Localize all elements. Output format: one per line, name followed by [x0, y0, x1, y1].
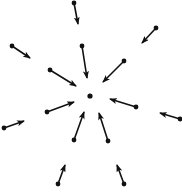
arrow-top: [72, 1, 78, 24]
arrow-shaft: [142, 28, 156, 43]
arrow-tail-dot: [72, 138, 77, 143]
arrow-right-outer: [160, 113, 182, 121]
arrow-tail-dot: [10, 44, 15, 49]
arrow-tail-dot: [122, 59, 127, 64]
arrow-bottom-left: [56, 165, 65, 186]
arrow-shaft: [47, 102, 74, 112]
arrow-shaft: [74, 112, 84, 140]
arrow-shaft: [160, 113, 180, 119]
center-point: [87, 93, 92, 98]
arrow-upper-left-outer: [10, 44, 30, 58]
arrow-tail-dot: [106, 139, 111, 144]
arrow-shaft: [103, 61, 124, 82]
arrow-right-inner: [110, 99, 138, 109]
arrow-shaft: [58, 165, 65, 184]
arrow-shaft: [12, 46, 30, 58]
arrow-tail-dot: [56, 182, 61, 187]
arrow-shaft: [4, 121, 24, 128]
arrow-left-outer: [2, 121, 24, 130]
arrow-tail-dot: [48, 68, 53, 73]
arrow-upper-inner: [80, 44, 87, 78]
arrow-bottom-right: [117, 165, 126, 186]
arrow-tail-dot: [178, 117, 182, 122]
arrow-tail-dot: [72, 1, 77, 6]
arrow-lower-right-inner: [99, 113, 110, 143]
arrow-shaft: [50, 70, 76, 86]
arrow-upper-right-outer: [142, 26, 158, 43]
arrow-group: [2, 1, 182, 187]
arrow-lower-left-inner: [72, 112, 84, 142]
arrow-shaft: [82, 46, 87, 78]
vector-field-diagram: [0, 0, 182, 194]
arrow-upper-right-inner: [103, 59, 126, 82]
arrow-tail-dot: [134, 105, 139, 110]
arrow-tail-dot: [154, 26, 159, 31]
arrow-shaft: [74, 3, 78, 24]
arrow-left-inner: [45, 102, 74, 114]
arrow-tail-dot: [45, 110, 50, 115]
arrow-tail-dot: [122, 182, 127, 187]
arrow-shaft: [110, 99, 136, 107]
arrow-shaft: [99, 113, 108, 141]
arrow-tail-dot: [2, 126, 7, 131]
arrow-shaft: [117, 165, 124, 184]
arrow-tail-dot: [80, 44, 85, 49]
arrow-upper-left-inner: [48, 68, 76, 86]
